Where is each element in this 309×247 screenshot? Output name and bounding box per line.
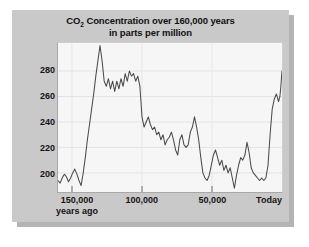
co2-data-line: [58, 46, 282, 189]
y-tick-label: 260: [15, 91, 55, 101]
y-tick-label: 240: [15, 117, 55, 127]
x-axis-tick-labels: 150,000years ago100,00050,000Today: [57, 195, 283, 223]
x-tick-sublabel: years ago: [56, 206, 98, 216]
chart-title: CO2 Concentration over 160,000 years in …: [20, 15, 281, 38]
gridlines: [58, 43, 282, 192]
x-axis-tick-marks: [72, 186, 212, 192]
y-axis-tick-labels: 200220240260280: [12, 42, 55, 193]
y-tick-label: 280: [15, 65, 55, 75]
plot-area: [57, 42, 283, 193]
x-tick-label: 150,000: [61, 195, 94, 205]
x-tick-label: 100,000: [125, 195, 158, 205]
x-tick-label: 50,000: [199, 195, 227, 205]
chart-title-co-text: CO: [66, 15, 80, 26]
x-tick-label: Today: [256, 195, 282, 205]
chart-title-rest: Concentration over 160,000 years: [84, 15, 235, 26]
chart-title-line-1: CO2 Concentration over 160,000 years: [20, 15, 281, 27]
y-tick-label: 220: [15, 143, 55, 153]
y-tick-label: 200: [15, 169, 55, 179]
plot-svg: [58, 43, 282, 192]
chart-panel: CO2 Concentration over 160,000 years in …: [12, 10, 289, 222]
chart-figure: CO2 Concentration over 160,000 years in …: [0, 0, 309, 247]
chart-title-line-2: in parts per million: [20, 27, 281, 39]
